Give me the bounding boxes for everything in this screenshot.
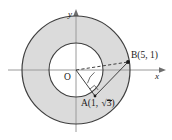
x-axis-arrowhead	[159, 67, 166, 72]
point-B-dot	[126, 60, 130, 64]
origin-label: O	[64, 73, 71, 83]
point-A-label-suffix: )	[112, 98, 115, 108]
point-A-label-prefix: A(1,	[81, 98, 101, 108]
y-axis-label: y	[68, 10, 72, 19]
y-axis-arrowhead	[73, 9, 78, 16]
radical-overbar	[107, 100, 111, 101]
point-A-label: A(1, √3)	[81, 99, 115, 109]
figure-canvas	[0, 0, 172, 140]
point-A-dot	[94, 95, 97, 98]
point-B-label: B(5, 1)	[131, 51, 158, 61]
geometry-figure: y x O B(5, 1) A(1, √3)	[0, 0, 172, 140]
x-axis-label: x	[155, 72, 159, 81]
point-A-radical: √3	[101, 99, 112, 109]
